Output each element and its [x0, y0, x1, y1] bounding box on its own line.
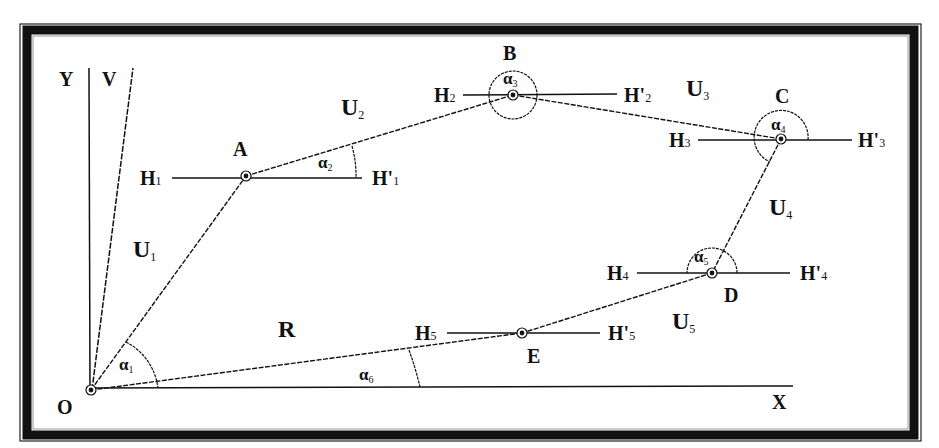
- label-point-C: C: [775, 85, 789, 107]
- v-axis: [92, 68, 133, 390]
- label-H4-prime: H'4: [800, 262, 827, 284]
- label-origin: O: [57, 396, 73, 418]
- segment-U2: [246, 95, 513, 176]
- label-H2: H2: [434, 84, 456, 106]
- segment-U1: [91, 176, 246, 390]
- horizontal-H2: [463, 94, 617, 95]
- point-C-marker: [776, 134, 786, 144]
- y-axis: [89, 68, 90, 390]
- label-segment-U3: U3: [686, 75, 709, 103]
- label-H3-prime: H'3: [858, 129, 885, 151]
- label-H1: H1: [140, 167, 162, 189]
- label-alpha6: α6: [359, 365, 374, 385]
- label-y-axis: Y: [59, 68, 74, 90]
- label-point-A: A: [233, 138, 248, 160]
- segment-R: [91, 333, 522, 390]
- diagram-canvas: Y V X O A B C D E U1 U2 U3 U4 U5 R H1 H'…: [0, 0, 939, 448]
- label-segment-U5: U5: [672, 308, 695, 336]
- label-alpha3: α3: [503, 69, 518, 89]
- label-H3: H3: [669, 129, 691, 151]
- label-alpha5: α5: [694, 247, 709, 267]
- arc-alpha6: [409, 350, 420, 387]
- label-x-axis: X: [772, 391, 787, 413]
- label-v-axis: V: [102, 68, 117, 90]
- point-E-marker: [517, 328, 527, 338]
- label-H4: H4: [607, 262, 629, 284]
- label-alpha1: α1: [119, 355, 134, 375]
- label-segment-U4: U4: [769, 194, 792, 222]
- point-D-marker: [707, 268, 717, 278]
- horizontal-lines: [172, 94, 852, 333]
- label-segment-U2: U2: [341, 94, 364, 122]
- label-H1-prime: H'1: [372, 167, 399, 189]
- label-point-D: D: [724, 284, 738, 306]
- label-segment-R: R: [278, 316, 296, 342]
- label-H5-prime: H'5: [608, 322, 635, 344]
- arc-alpha2: [352, 146, 356, 178]
- label-H5: H5: [415, 322, 437, 344]
- diagram-svg: Y V X O A B C D E U1 U2 U3 U4 U5 R H1 H'…: [0, 0, 939, 448]
- label-alpha4: α4: [771, 115, 786, 135]
- label-point-E: E: [527, 345, 540, 367]
- label-H2-prime: H'2: [624, 84, 651, 106]
- x-axis: [91, 386, 793, 388]
- point-B-marker: [508, 90, 518, 100]
- label-point-B: B: [503, 42, 516, 64]
- label-alpha2: α2: [318, 153, 333, 173]
- label-segment-U1: U1: [133, 236, 156, 264]
- point-A-marker: [241, 171, 251, 181]
- point-O-marker: [86, 385, 96, 395]
